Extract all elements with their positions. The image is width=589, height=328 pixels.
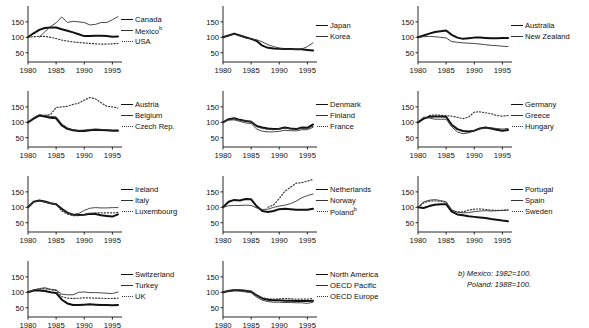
plot-area-9: 501001501980198519901995: [390, 170, 585, 255]
legend-swatch-icon: [120, 270, 133, 279]
legend-item-austria[interactable]: Austria: [120, 99, 175, 110]
axis-lines: [223, 176, 317, 232]
legend-item-greece[interactable]: Greece: [510, 110, 556, 121]
y-tick-label: 100: [206, 288, 219, 297]
x-tick-label: 1980: [409, 236, 426, 245]
x-tick-label: 1980: [214, 236, 231, 245]
x-tick-label: 1995: [104, 151, 121, 160]
axis-lines: [223, 261, 317, 317]
axis-lines: [418, 6, 512, 62]
y-tick-label: 150: [11, 273, 24, 282]
panel-legend: North AmericaOECD PacificOECD Europe: [315, 269, 379, 302]
legend-item-australia[interactable]: Australia: [510, 20, 570, 31]
legend-swatch-icon: [315, 185, 328, 194]
legend-item-finland[interactable]: Finland: [315, 110, 361, 121]
legend-item-portugal[interactable]: Portugal: [510, 184, 553, 195]
legend-item-czech-rep[interactable]: Czech Rep.: [120, 121, 175, 132]
legend-item-mexico[interactable]: Mexicob: [120, 25, 162, 36]
x-tick-label: 1985: [48, 66, 65, 75]
panel-legend: SwitzerlandTurkeyUK: [120, 269, 174, 302]
legend-item-oecd-pacific[interactable]: OECD Pacific: [315, 280, 379, 291]
y-tick-label: 100: [206, 203, 219, 212]
y-tick-label: 100: [11, 288, 24, 297]
legend-swatch-icon: [510, 100, 523, 109]
legend-swatch-icon: [510, 21, 523, 30]
legend-label: OECD Europe: [330, 293, 379, 301]
legend-swatch-icon: [120, 281, 133, 290]
legend-swatch-icon: [510, 207, 523, 216]
legend-label: Australia: [525, 22, 555, 30]
legend-item-usa[interactable]: USA: [120, 36, 162, 47]
legend-swatch-icon: [315, 100, 328, 109]
x-tick-label: 1985: [243, 321, 260, 328]
x-tick-label: 1980: [214, 321, 231, 328]
legend-item-norway[interactable]: Norway: [315, 195, 371, 206]
legend-item-denmark[interactable]: Denmark: [315, 99, 361, 110]
legend-item-north-america[interactable]: North America: [315, 269, 379, 280]
legend-label: Italy: [135, 197, 149, 205]
legend-swatch-icon: [120, 100, 133, 109]
legend-item-luxembourg[interactable]: Luxembourg: [120, 206, 177, 217]
legend-item-germany[interactable]: Germany: [510, 99, 556, 110]
legend-swatch-icon: [315, 32, 328, 41]
legend-item-turkey[interactable]: Turkey: [120, 280, 174, 291]
panel-legend: GermanyGreeceHungary: [510, 99, 556, 132]
legend-label: Greece: [525, 112, 550, 120]
x-tick-label: 1990: [466, 151, 483, 160]
chart-panel-4: 501001501980198519901995AustriaBelgiumCz…: [0, 85, 195, 170]
legend-item-netherlands[interactable]: Netherlands: [315, 184, 371, 195]
y-tick-label: 50: [15, 134, 24, 143]
x-tick-label: 1985: [438, 151, 455, 160]
x-tick-label: 1990: [76, 236, 93, 245]
legend-item-sweden[interactable]: Sweden: [510, 206, 553, 217]
x-tick-label: 1985: [48, 151, 65, 160]
y-tick-label: 50: [15, 304, 24, 313]
legend-item-poland[interactable]: Polandb: [315, 206, 371, 217]
legend-item-belgium[interactable]: Belgium: [120, 110, 175, 121]
legend-item-switzerland[interactable]: Switzerland: [120, 269, 174, 280]
legend-footnote-marker: b: [354, 206, 357, 212]
x-tick-label: 1985: [48, 236, 65, 245]
y-tick-label: 100: [11, 203, 24, 212]
legend-swatch-icon: [315, 207, 328, 216]
x-tick-label: 1985: [243, 66, 260, 75]
legend-label: Germany: [525, 101, 556, 109]
y-tick-label: 50: [210, 219, 219, 228]
legend-item-korea[interactable]: Korea: [315, 31, 351, 42]
panel-legend: AustriaBelgiumCzech Rep.: [120, 99, 175, 132]
x-tick-label: 1995: [494, 151, 511, 160]
legend-item-ireland[interactable]: Ireland: [120, 184, 177, 195]
panel-legend: JapanKorea: [315, 20, 351, 42]
legend-item-hungary[interactable]: Hungary: [510, 121, 556, 132]
legend-item-spain[interactable]: Spain: [510, 195, 553, 206]
legend-item-oecd-europe[interactable]: OECD Europe: [315, 291, 379, 302]
legend-item-italy[interactable]: Italy: [120, 195, 177, 206]
legend-swatch-icon: [315, 196, 328, 205]
y-tick-label: 50: [405, 134, 414, 143]
legend-label: New Zealand: [525, 33, 570, 41]
y-tick-label: 100: [401, 33, 414, 42]
legend-swatch-icon: [315, 270, 328, 279]
legend-item-france[interactable]: France: [315, 121, 361, 132]
y-tick-label: 100: [401, 118, 414, 127]
legend-label: Hungary: [525, 123, 554, 131]
series-line: [223, 118, 313, 129]
legend-swatch-icon: [120, 196, 133, 205]
chart-panel-1: 501001501980198519901995CanadaMexicobUSA: [0, 0, 195, 85]
legend-item-new-zealand[interactable]: New Zealand: [510, 31, 570, 42]
legend-label: Spain: [525, 197, 544, 205]
chart-panel-12: [390, 255, 589, 328]
legend-label: Portugal: [525, 186, 553, 194]
axis-lines: [28, 176, 122, 232]
x-tick-label: 1990: [466, 236, 483, 245]
legend-footnote-marker: b: [159, 25, 162, 31]
y-tick-label: 150: [206, 273, 219, 282]
legend-item-uk[interactable]: UK: [120, 291, 174, 302]
legend-item-japan[interactable]: Japan: [315, 20, 351, 31]
x-tick-label: 1990: [271, 236, 288, 245]
x-tick-label: 1985: [243, 151, 260, 160]
legend-label: Polandb: [330, 207, 357, 216]
legend-swatch-icon: [315, 292, 328, 301]
legend-item-canada[interactable]: Canada: [120, 14, 162, 25]
legend-swatch-icon: [120, 122, 133, 131]
